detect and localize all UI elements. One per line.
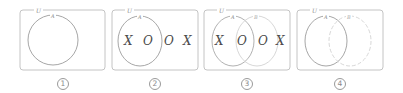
mark-o: O — [143, 34, 153, 48]
mark-o: O — [258, 34, 268, 48]
panel-number-4: 4 — [332, 77, 348, 89]
panel-1: U A — [20, 7, 105, 70]
circled-number: 2 — [149, 78, 161, 90]
set-b-circle — [329, 16, 371, 66]
mark-o: O — [164, 34, 174, 48]
circled-number: 3 — [241, 78, 253, 90]
panel-4: U A B — [297, 7, 383, 70]
panel-number-2: 2 — [147, 77, 163, 89]
panel-number-3: 3 — [239, 77, 255, 89]
panel-2: U A X O O X — [112, 7, 198, 70]
mark-x: X — [275, 34, 285, 48]
panel-number-1: 1 — [55, 77, 71, 89]
set-a-circle — [305, 16, 347, 66]
set-a-circle — [28, 15, 78, 65]
universe-label: U — [219, 7, 225, 14]
mark-x: X — [123, 34, 133, 48]
mark-x: X — [182, 34, 192, 48]
set-a-label: A — [323, 14, 328, 20]
venn-diagram-figure: U A U A X O O X U A B X O — [0, 0, 403, 93]
panel-3: U A B X O O X — [204, 7, 290, 70]
mark-x: X — [214, 34, 224, 48]
set-a-label: A — [230, 14, 235, 20]
universe-frame — [20, 10, 105, 70]
universe-label: U — [36, 7, 42, 14]
set-b-label: B — [346, 14, 351, 20]
universe-label: U — [127, 7, 133, 14]
set-a-label: A — [137, 14, 142, 20]
set-a-label: A — [50, 13, 55, 19]
circled-number: 4 — [334, 78, 346, 90]
universe-label: U — [312, 7, 318, 14]
set-b-label: B — [253, 14, 258, 20]
circled-number: 1 — [57, 78, 69, 90]
mark-o: O — [237, 34, 247, 48]
